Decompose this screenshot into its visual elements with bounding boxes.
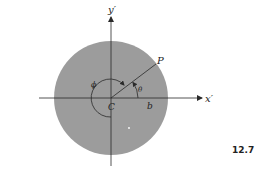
radius-b-label: b [147,101,153,111]
y-axis-label: y′ [107,4,117,15]
point-p-label: P [156,55,164,66]
circle-diagram: y′ x′ P C b θ ϕ [0,0,269,176]
x-axis-label: x′ [205,93,214,104]
phi-label: ϕ [91,80,97,89]
diagram-figure: y′ x′ P C b θ ϕ 12.7 [0,0,269,176]
white-speck [128,127,130,129]
center-c-label: C [108,102,115,112]
figure-number: 12.7 [232,145,254,155]
